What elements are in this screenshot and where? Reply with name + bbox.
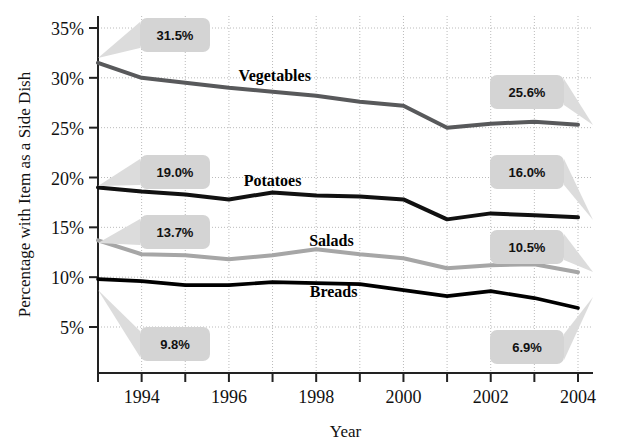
callout-pointer — [564, 159, 593, 220]
callout-pointer — [98, 159, 140, 186]
callout-pointer — [98, 22, 140, 58]
series-label-salads: Salads — [309, 232, 353, 249]
callout-pointer — [564, 234, 593, 272]
series-label-breads: Breads — [310, 283, 358, 300]
callout-value-label: 31.5% — [157, 28, 194, 43]
callout-value-label: 13.7% — [157, 225, 194, 240]
series-line-potatoes — [98, 187, 578, 219]
x-tick-label: 1998 — [298, 387, 334, 407]
line-chart: 5%10%15%20%25%30%35%19941996199820002002… — [0, 0, 624, 448]
series-inline-labels: VegetablesPotatoesSaladsBreads — [239, 67, 358, 300]
chart-canvas: 5%10%15%20%25%30%35%19941996199820002002… — [0, 0, 624, 448]
x-tick-label: 2000 — [385, 387, 421, 407]
callout-pointer — [98, 290, 140, 357]
callout-value-label: 10.5% — [509, 240, 546, 255]
y-tick-label: 5% — [60, 318, 84, 338]
x-axis-title: Year — [330, 422, 362, 441]
series-label-vegetables: Vegetables — [239, 67, 311, 85]
y-tick-label: 20% — [51, 169, 84, 189]
x-tick-label: 2002 — [473, 387, 509, 407]
x-tick-label: 1994 — [124, 387, 160, 407]
callout-pointer — [98, 219, 140, 245]
y-tick-label: 35% — [51, 19, 84, 39]
y-axis-title: Percentage with Item as a Side Dish — [15, 71, 34, 317]
y-tick-label: 25% — [51, 119, 84, 139]
x-tick-label: 1996 — [211, 387, 247, 407]
callout-value-label: 19.0% — [157, 165, 194, 180]
series-label-potatoes: Potatoes — [244, 172, 302, 189]
y-tick-label: 10% — [51, 268, 84, 288]
y-tick-label: 15% — [51, 218, 84, 238]
x-tick-label: 2004 — [560, 387, 596, 407]
callout-value-label: 16.0% — [509, 165, 546, 180]
callout-value-label: 6.9% — [512, 340, 542, 355]
callout-value-label: 9.8% — [160, 337, 190, 352]
callout-value-label: 25.6% — [509, 85, 546, 100]
y-tick-label: 30% — [51, 69, 84, 89]
value-callouts: 31.5%19.0%13.7%9.8%25.6%16.0%10.5%6.9% — [98, 18, 593, 364]
